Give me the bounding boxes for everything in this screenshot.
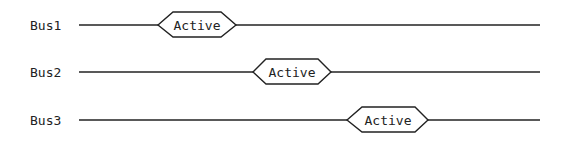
state-label: Active — [174, 18, 221, 33]
bus-row-3: Bus3 Active — [30, 107, 540, 132]
bus-label: Bus3 — [30, 113, 61, 128]
state-label: Active — [269, 65, 316, 80]
bus-label: Bus2 — [30, 65, 61, 80]
state-label: Active — [365, 113, 412, 128]
bus-row-1: Bus1 Active — [30, 12, 540, 37]
bus-row-2: Bus2 Active — [30, 59, 540, 84]
timing-diagram: Bus1 Active Bus2 Active Bus3 Active — [0, 0, 566, 142]
bus-label: Bus1 — [30, 18, 61, 33]
